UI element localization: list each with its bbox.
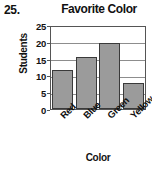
y-axis-tick-label: 25	[24, 21, 46, 32]
y-axis-tick-mark	[47, 110, 50, 111]
bar-chart-figure: 25. Favorite Color Students 0510152025 R…	[0, 0, 152, 169]
y-axis-tick-label: 10	[24, 71, 46, 82]
x-axis-title: Color	[50, 152, 146, 163]
y-axis-tick-label: 15	[24, 54, 46, 65]
problem-number: 25.	[4, 3, 20, 17]
y-axis-tick-label: 0	[24, 105, 46, 116]
bars-layer	[51, 27, 145, 109]
y-axis-tick-label: 5	[24, 88, 46, 99]
y-axis-tick-label: 20	[24, 37, 46, 48]
chart-title: Favorite Color	[46, 2, 152, 16]
